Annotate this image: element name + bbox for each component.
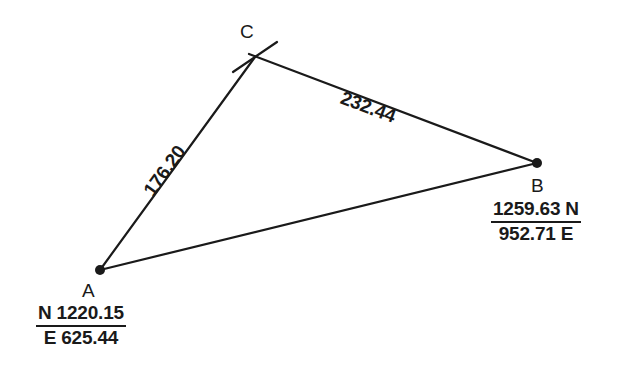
coordinate-northing-a: N 1220.15 <box>36 303 126 327</box>
vertex-label-b: B <box>531 176 544 197</box>
coordinate-easting-b: 952.71 E <box>491 223 581 245</box>
station-dot-icon-a <box>95 265 105 275</box>
vertex-label-c: C <box>240 22 254 43</box>
coordinate-label-a: N 1220.15 E 625.44 <box>36 303 126 348</box>
survey-diagram-canvas: A B C N 1220.15 E 625.44 1259.63 N 952.7… <box>0 0 626 376</box>
coordinate-easting-a: E 625.44 <box>36 327 126 349</box>
station-dot-icon-b <box>532 158 542 168</box>
vertex-label-a: A <box>82 281 95 302</box>
station-tick-icon-c <box>233 42 277 72</box>
coordinate-label-b: 1259.63 N 952.71 E <box>491 199 581 244</box>
coordinate-northing-b: 1259.63 N <box>491 199 581 223</box>
